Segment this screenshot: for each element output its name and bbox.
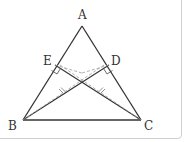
triangle-abc [23, 26, 141, 120]
label-e: E [43, 55, 52, 67]
right-angle-marks [52, 69, 113, 75]
label-d: D [111, 55, 121, 67]
label-a: A [78, 9, 87, 21]
label-c: C [144, 120, 153, 132]
triangle-diagram [0, 0, 185, 142]
label-b: B [8, 120, 17, 132]
